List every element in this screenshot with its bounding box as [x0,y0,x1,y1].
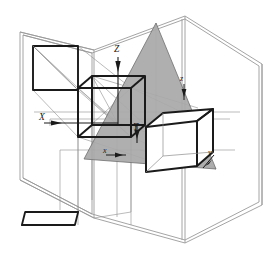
local-axis-x-label: x [102,146,107,155]
world-axis-z-label: Z [114,44,120,54]
floor-projection-parallelogram [22,212,78,225]
back-wall-projection-diagonal [33,46,78,90]
local-axis-y-label: y [207,148,212,157]
world-axis-x-label: X [38,112,46,122]
figure-root: Z X Y z x y [0,0,269,255]
projection-diagram: Z X Y z x y [0,0,269,255]
local-axis-z-label: z [179,74,184,83]
